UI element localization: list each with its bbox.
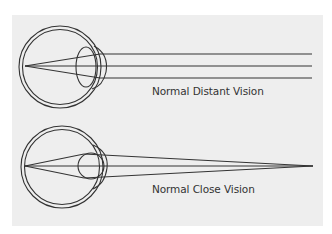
eye-inner-wall (25, 130, 100, 205)
ray-bottom (25, 66, 100, 78)
ray-bottom (25, 166, 84, 178)
ray-top (25, 54, 100, 66)
label-close-vision: Normal Close Vision (152, 183, 255, 195)
eye-diagrams (0, 0, 332, 234)
lens-flat (76, 47, 96, 87)
eye-close-illustration (21, 126, 313, 208)
eye-outer-sclera (21, 126, 103, 208)
label-distant-vision: Normal Distant Vision (152, 85, 264, 97)
ray-bottom-diverge (84, 166, 313, 178)
ray-top (25, 154, 84, 166)
ray-top-diverge (84, 154, 313, 166)
